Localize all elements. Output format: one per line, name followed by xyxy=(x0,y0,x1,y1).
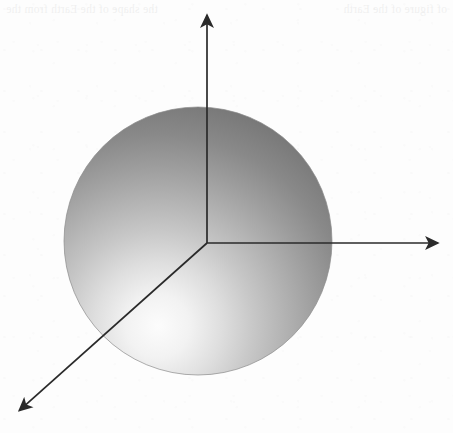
coordinate-system-with-sphere-figure xyxy=(0,0,453,433)
figure-page: of figure of the Earth the shape of the … xyxy=(0,0,453,433)
